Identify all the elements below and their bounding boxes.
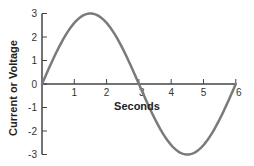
x-tick-label: 5 [201,87,207,98]
x-tick-label: 2 [104,87,110,98]
y-tick-label: -2 [28,126,37,137]
y-tick-label: 2 [31,32,37,43]
y-axis-title: Current or Voltage [7,40,19,136]
x-tick-label: 6 [236,87,242,98]
y-tick-label: 1 [31,55,37,66]
x-tick-label: 1 [72,87,78,98]
x-tick-label: 4 [168,87,174,98]
y-tick-label: -3 [28,149,37,160]
sine-chart: 3210-1-2-3 123456 Seconds Current or Vol… [0,0,254,166]
y-tick-label: 0 [31,79,37,90]
y-tick-label: 3 [31,8,37,19]
y-tick-label: -1 [28,102,37,113]
x-axis-title: Seconds [114,100,160,112]
